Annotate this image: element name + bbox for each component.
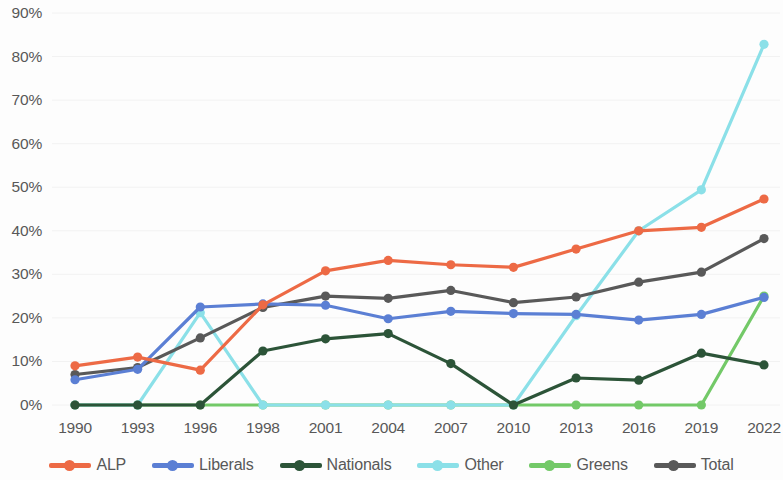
series-other	[70, 40, 768, 410]
legend-color-swatch	[152, 458, 194, 472]
series-line	[75, 296, 764, 405]
legend-color-swatch	[49, 458, 91, 472]
data-point-marker	[509, 263, 518, 272]
legend-color-swatch	[280, 458, 322, 472]
legend-item-label: Greens	[576, 456, 627, 474]
data-point-marker	[321, 400, 330, 409]
data-point-marker	[446, 286, 455, 295]
data-point-marker	[634, 226, 643, 235]
data-point-marker	[634, 400, 643, 409]
data-point-marker	[697, 268, 706, 277]
series-total	[70, 234, 768, 379]
data-point-marker	[196, 400, 205, 409]
data-point-marker	[258, 300, 267, 309]
plot-series-layer	[0, 0, 783, 480]
data-point-marker	[571, 292, 580, 301]
data-point-marker	[196, 366, 205, 375]
data-point-marker	[70, 375, 79, 384]
data-point-marker	[571, 244, 580, 253]
data-point-marker	[70, 361, 79, 370]
data-point-marker	[384, 400, 393, 409]
data-point-marker	[759, 293, 768, 302]
series-nationals	[70, 329, 768, 410]
legend-item-label: Total	[701, 456, 734, 474]
data-point-marker	[697, 349, 706, 358]
legend-item-label: Nationals	[327, 456, 392, 474]
series-line	[75, 44, 764, 405]
data-point-marker	[571, 310, 580, 319]
data-point-marker	[509, 298, 518, 307]
series-line	[75, 239, 764, 375]
data-point-marker	[446, 260, 455, 269]
data-point-marker	[697, 185, 706, 194]
legend-color-swatch	[529, 458, 571, 472]
data-point-marker	[70, 400, 79, 409]
data-point-marker	[258, 400, 267, 409]
data-point-marker	[446, 400, 455, 409]
data-point-marker	[759, 360, 768, 369]
line-chart: 90%80%70%60%50%40%30%20%10%0% 1990199319…	[0, 0, 783, 480]
data-point-marker	[697, 400, 706, 409]
series-line	[75, 297, 764, 379]
legend-item-label: Liberals	[199, 456, 253, 474]
data-point-marker	[321, 292, 330, 301]
legend-item-total[interactable]: Total	[654, 456, 734, 474]
legend-item-nationals[interactable]: Nationals	[280, 456, 392, 474]
data-point-marker	[759, 40, 768, 49]
data-point-marker	[196, 302, 205, 311]
data-point-marker	[697, 223, 706, 232]
data-point-marker	[133, 365, 142, 374]
data-point-marker	[634, 315, 643, 324]
data-point-marker	[384, 294, 393, 303]
data-point-marker	[384, 256, 393, 265]
data-point-marker	[571, 373, 580, 382]
data-point-marker	[133, 400, 142, 409]
data-point-marker	[384, 314, 393, 323]
data-point-marker	[509, 309, 518, 318]
data-point-marker	[133, 352, 142, 361]
legend-item-liberals[interactable]: Liberals	[152, 456, 253, 474]
data-point-marker	[321, 334, 330, 343]
data-point-marker	[759, 194, 768, 203]
legend-item-greens[interactable]: Greens	[529, 456, 627, 474]
data-point-marker	[446, 307, 455, 316]
data-point-marker	[509, 400, 518, 409]
data-point-marker	[571, 400, 580, 409]
data-point-marker	[759, 234, 768, 243]
data-point-marker	[384, 329, 393, 338]
legend-item-other[interactable]: Other	[417, 456, 503, 474]
data-point-marker	[697, 310, 706, 319]
chart-legend: ALPLiberalsNationalsOtherGreensTotal	[0, 456, 783, 474]
data-point-marker	[634, 376, 643, 385]
data-point-marker	[446, 359, 455, 368]
data-point-marker	[321, 266, 330, 275]
data-point-marker	[196, 333, 205, 342]
data-point-marker	[634, 278, 643, 287]
legend-color-swatch	[654, 458, 696, 472]
data-point-marker	[258, 346, 267, 355]
data-point-marker	[321, 301, 330, 310]
legend-item-alp[interactable]: ALP	[49, 456, 126, 474]
legend-item-label: ALP	[96, 456, 126, 474]
legend-item-label: Other	[464, 456, 503, 474]
legend-color-swatch	[417, 458, 459, 472]
